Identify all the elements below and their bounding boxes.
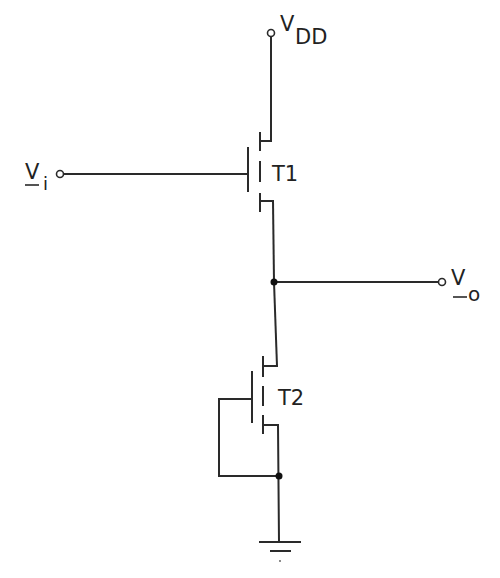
vo-label: V o [451, 266, 480, 306]
svg-text:V: V [280, 12, 295, 36]
t2-source-wire [278, 425, 279, 542]
output-to-t2-wire [274, 282, 277, 366]
svg-text:V: V [25, 160, 40, 184]
vdd-label: V DD [280, 12, 327, 49]
t2-label: T2 [277, 386, 304, 410]
svg-text:o: o [468, 282, 480, 306]
vi-label: V i [25, 160, 48, 194]
t1-to-output-wire [273, 201, 274, 282]
ground-mark-dot [279, 560, 281, 562]
t1-label: T1 [271, 162, 298, 186]
vo-terminal [439, 279, 446, 286]
vi-terminal [57, 171, 64, 178]
ground-junction-dot [276, 473, 283, 480]
transistor-t2 [252, 357, 278, 433]
output-junction-dot [271, 279, 278, 286]
vdd-terminal [268, 30, 275, 37]
svg-text:i: i [43, 173, 48, 194]
ground-icon [260, 542, 300, 551]
t2-gate-loop-wire [219, 399, 279, 476]
circuit-diagram: V DD V i V o T1 T2 [0, 0, 500, 578]
svg-text:V: V [451, 266, 466, 290]
svg-text:DD: DD [295, 25, 327, 49]
transistor-t1 [248, 133, 273, 211]
